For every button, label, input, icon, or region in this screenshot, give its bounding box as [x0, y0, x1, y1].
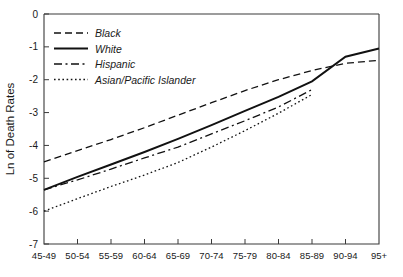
line-chart: 0-1-2-3-4-5-6-7 45-4950-5455-5960-6465-6… [0, 0, 403, 277]
legend-label: Asian/Pacific Islander [94, 74, 196, 86]
y-tick-label: -5 [29, 173, 38, 184]
series-line-asian-pacific-islander [44, 95, 312, 212]
y-tick-label: 0 [32, 9, 38, 20]
x-tick-label: 65-69 [166, 250, 190, 261]
x-tick-label: 60-64 [132, 250, 156, 261]
chart-container: 0-1-2-3-4-5-6-7 45-4950-5455-5960-6465-6… [0, 0, 403, 277]
y-axis-tick-labels: 0-1-2-3-4-5-6-7 [29, 9, 38, 250]
y-tick-label: -1 [29, 41, 38, 52]
x-axis-tick-labels: 45-4950-5455-5960-6465-6970-7475-7980-84… [32, 250, 388, 261]
legend-label: White [95, 43, 122, 55]
x-tick-label: 70-74 [199, 250, 223, 261]
y-tick-label: -4 [29, 140, 38, 151]
legend-label: Black [95, 27, 121, 39]
x-tick-marks [78, 239, 346, 244]
x-tick-label: 45-49 [32, 250, 56, 261]
x-tick-label: 85-89 [300, 250, 324, 261]
y-tick-label: -6 [29, 206, 38, 217]
y-tick-label: -7 [29, 239, 38, 250]
x-tick-label: 75-79 [233, 250, 257, 261]
x-tick-label: 95+ [371, 250, 388, 261]
x-tick-label: 90-94 [333, 250, 357, 261]
x-tick-label: 55-59 [99, 250, 123, 261]
x-tick-label: 50-54 [65, 250, 89, 261]
y-tick-label: -2 [29, 74, 38, 85]
legend-label: Hispanic [95, 58, 136, 70]
y-tick-label: -3 [29, 107, 38, 118]
x-tick-label: 80-84 [266, 250, 290, 261]
y-axis-title: Ln of Death Rates [4, 82, 16, 175]
chart-legend: BlackWhiteHispanicAsian/Pacific Islander [54, 27, 196, 86]
